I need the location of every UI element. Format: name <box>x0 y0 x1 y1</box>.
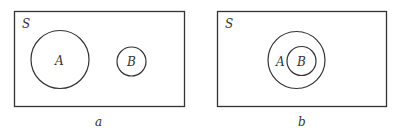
panel-b: S A B b <box>218 12 387 130</box>
set-label-a-B: B <box>126 55 136 69</box>
universe-rect-a <box>15 12 185 107</box>
panel-caption-a: a <box>95 115 102 129</box>
venn-diagram-figure: S A B a S A B b <box>0 0 399 132</box>
set-label-b-B: B <box>296 55 306 69</box>
panel-caption-b: b <box>298 115 306 129</box>
set-label-a-A: A <box>54 54 64 68</box>
panel-a: S A B a <box>15 12 185 130</box>
set-label-b-A: A <box>275 55 285 69</box>
universe-label-a: S <box>22 17 30 31</box>
universe-label-b: S <box>225 17 233 31</box>
